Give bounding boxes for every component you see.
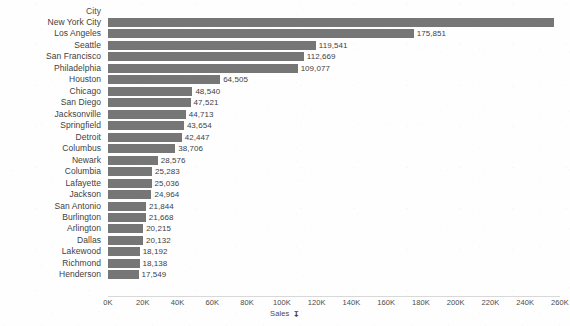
- bar-category-label: Detroit: [0, 132, 101, 143]
- bar-row[interactable]: Richmond18,138: [0, 258, 570, 269]
- bar[interactable]: [108, 133, 182, 142]
- bar-row[interactable]: Arlington20,215: [0, 223, 570, 234]
- bar[interactable]: [108, 179, 152, 188]
- bar-category-label: Newark: [0, 155, 101, 166]
- bar-container: 18,138: [108, 259, 570, 268]
- bar[interactable]: [108, 190, 151, 199]
- bar-value-label: 18,192: [143, 247, 168, 256]
- bar-category-label: New York City: [0, 17, 101, 28]
- bar-row[interactable]: Lafayette25,036: [0, 178, 570, 189]
- bar-category-label: Lakewood: [0, 246, 101, 257]
- bar[interactable]: [108, 259, 140, 268]
- bar-category-label: Jacksonville: [0, 109, 101, 120]
- bar[interactable]: [108, 247, 140, 256]
- bar-row[interactable]: San Francisco112,669: [0, 51, 570, 62]
- bar-row[interactable]: Jackson24,964: [0, 189, 570, 200]
- bar-category-label: Richmond: [0, 258, 101, 269]
- bar-category-label: Seattle: [0, 40, 101, 51]
- x-axis-tick-label: 60K: [205, 298, 219, 307]
- bar-container: 20,215: [108, 224, 570, 233]
- bar-row[interactable]: Philadelphia109,077: [0, 63, 570, 74]
- bar[interactable]: [108, 156, 158, 165]
- bar-value-label: 119,541: [319, 41, 348, 50]
- bar-row[interactable]: Columbia25,283: [0, 166, 570, 177]
- bar-container: 119,541: [108, 41, 570, 50]
- bar-value-label: 42,447: [185, 133, 210, 142]
- bar-row[interactable]: Chicago48,540: [0, 86, 570, 97]
- bar-container: 24,964: [108, 190, 570, 199]
- bar-rows: New York City256,368Los Angeles175,851Se…: [0, 17, 570, 281]
- x-axis-tick-label: 160K: [377, 298, 395, 307]
- bar-row[interactable]: Detroit42,447: [0, 132, 570, 143]
- bar-category-label: Columbia: [0, 166, 101, 177]
- bar-row[interactable]: Seattle119,541: [0, 40, 570, 51]
- bar-value-label: 112,669: [307, 52, 336, 61]
- bar-row[interactable]: San Antonio21,844: [0, 201, 570, 212]
- bar-row[interactable]: New York City256,368: [0, 17, 570, 28]
- bar-container: 21,844: [108, 202, 570, 211]
- bar-container: 112,669: [108, 52, 570, 61]
- bar-row[interactable]: Columbus38,706: [0, 143, 570, 154]
- bar[interactable]: [108, 41, 316, 50]
- bar-value-label: 21,668: [149, 213, 174, 222]
- x-axis-tick-label: 100K: [273, 298, 291, 307]
- bar-row[interactable]: San Diego47,521: [0, 97, 570, 108]
- bar[interactable]: [108, 224, 143, 233]
- bar[interactable]: [108, 18, 554, 27]
- bar-category-label: Houston: [0, 74, 101, 85]
- bar-row[interactable]: Burlington21,668: [0, 212, 570, 223]
- bar-row[interactable]: Springfield43,654: [0, 120, 570, 131]
- x-axis-tick-label: 120K: [308, 298, 326, 307]
- x-axis-tick-label: 180K: [412, 298, 430, 307]
- bar-container: 21,668: [108, 213, 570, 222]
- bar-row[interactable]: Henderson17,549: [0, 269, 570, 280]
- bar-row[interactable]: Dallas20,132: [0, 235, 570, 246]
- bar-value-label: 17,549: [142, 270, 167, 279]
- bar[interactable]: [108, 52, 304, 61]
- bar-row[interactable]: Jacksonville44,713: [0, 109, 570, 120]
- bar-row[interactable]: Lakewood18,192: [0, 246, 570, 257]
- bar[interactable]: [108, 75, 220, 84]
- bar[interactable]: [108, 236, 143, 245]
- bar[interactable]: [108, 213, 146, 222]
- bar-value-label: 64,505: [223, 75, 248, 84]
- bar-category-label: Arlington: [0, 223, 101, 234]
- bar-container: 25,036: [108, 179, 570, 188]
- x-axis-tick-label: 200K: [447, 298, 465, 307]
- bar[interactable]: [108, 202, 146, 211]
- x-axis-tick-label: 0K: [103, 298, 112, 307]
- bar-value-label: 24,964: [154, 190, 179, 199]
- bar-container: 175,851: [108, 29, 570, 38]
- bar[interactable]: [108, 29, 414, 38]
- bar[interactable]: [108, 98, 191, 107]
- sort-descending-icon[interactable]: ↧: [292, 310, 300, 319]
- bar[interactable]: [108, 144, 175, 153]
- bar-container: 20,132: [108, 236, 570, 245]
- bar-category-label: Philadelphia: [0, 63, 101, 74]
- bar[interactable]: [108, 270, 139, 279]
- x-axis-title[interactable]: Sales↧: [0, 309, 570, 319]
- bar-value-label: 43,654: [187, 121, 212, 130]
- bar-value-label: 20,132: [146, 236, 171, 245]
- bar-category-label: San Diego: [0, 97, 101, 108]
- bar-category-label: Springfield: [0, 120, 101, 131]
- bar-container: 47,521: [108, 98, 570, 107]
- bar-value-label: 38,706: [178, 144, 203, 153]
- bar-value-label: 25,036: [155, 179, 180, 188]
- bar[interactable]: [108, 87, 192, 96]
- bar[interactable]: [108, 64, 298, 73]
- bar-row[interactable]: Newark28,576: [0, 155, 570, 166]
- bar-container: 109,077: [108, 64, 570, 73]
- bar[interactable]: [108, 167, 152, 176]
- bar-row[interactable]: Los Angeles175,851: [0, 28, 570, 39]
- bar-row[interactable]: Houston64,505: [0, 74, 570, 85]
- bar[interactable]: [108, 121, 184, 130]
- bar[interactable]: [108, 110, 186, 119]
- bar-chart: City New York City256,368Los Angeles175,…: [0, 0, 570, 326]
- bar-container: 18,192: [108, 247, 570, 256]
- bar-container: 43,654: [108, 121, 570, 130]
- bar-category-label: Chicago: [0, 86, 101, 97]
- bar-value-label: 25,283: [155, 167, 180, 176]
- category-column-header[interactable]: City: [0, 6, 101, 16]
- x-axis-tick-label: 20K: [136, 298, 150, 307]
